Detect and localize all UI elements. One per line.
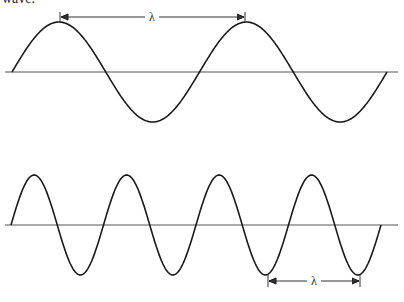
wavelength-label-long: λ [149,10,155,24]
wave-diagram: λ λ [0,0,404,302]
wavelength-label-short: λ [311,274,317,288]
